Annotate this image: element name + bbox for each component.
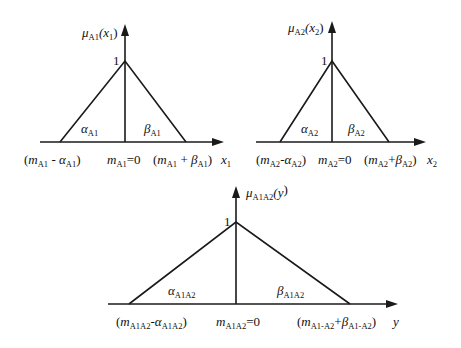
peak-label-a1a2: 1	[224, 214, 231, 229]
mu-a2-axis-arrow-icon	[328, 21, 336, 33]
alpha-a1-label: αA1	[81, 121, 98, 138]
x-label-a2-center: mA2=0	[318, 152, 352, 169]
beta-a1a2-label: βA1A2	[276, 283, 304, 300]
peak-label-a2: 1	[321, 53, 328, 68]
beta-a2-label: βA2	[347, 121, 365, 138]
x1-axis-arrow-icon	[212, 138, 224, 146]
triangle-a1a2	[129, 222, 350, 304]
panel-a1a2: μA1A2(y) 1 αA1A2 βA1A2 (mA1A2-αA1A2) mA1…	[108, 182, 399, 331]
mu-a1-axis-arrow-icon	[121, 24, 129, 36]
panel-a1: μA1(x1) 1 αA1 βA1 (mA1 - αA1) mA1=0 (mA1…	[24, 24, 231, 169]
x2-axis-label: x2	[426, 152, 437, 169]
panel-a2: μA2(x2) 1 αA2 βA2 (mA2-αA2) mA2=0 (mA2+β…	[256, 20, 437, 169]
x1-axis-label: x1	[220, 152, 231, 169]
mu-a1a2-axis-arrow-icon	[232, 186, 240, 198]
x-label-a1-center: mA1=0	[107, 152, 141, 169]
triangle-a1	[60, 61, 186, 142]
alpha-a1a2-label: αA1A2	[168, 283, 196, 300]
x-label-a1a2-left: (mA1A2-αA1A2)	[116, 314, 187, 331]
x-label-a1-left: (mA1 - αA1)	[24, 152, 81, 169]
x-label-a1a2-center: mA1A2=0	[216, 314, 260, 331]
x-label-a1-right: (mA1 + βA1)	[153, 152, 212, 169]
mu-a1a2-label: μA1A2(y)	[245, 182, 288, 202]
x-label-a2-right: (mA2+βA2)	[364, 152, 417, 169]
alpha-a2-label: αA2	[301, 121, 318, 138]
x2-axis-arrow-icon	[414, 138, 426, 146]
mu-a2-label: μA2(x2)	[287, 20, 324, 37]
triangle-a2	[280, 61, 389, 142]
x-label-a2-left: (mA2-αA2)	[256, 152, 306, 169]
fuzzy-membership-diagram: μA1(x1) 1 αA1 βA1 (mA1 - αA1) mA1=0 (mA1…	[0, 0, 461, 348]
peak-label-a1: 1	[113, 53, 120, 68]
y-axis-arrow-icon	[386, 300, 398, 308]
mu-a1-label: μA1(x1)	[81, 25, 118, 42]
x-label-a1a2-right: (mA1-A2+βA1-A2)	[297, 314, 376, 331]
beta-a1-label: βA1	[143, 121, 161, 138]
y-axis-label: y	[391, 314, 399, 329]
